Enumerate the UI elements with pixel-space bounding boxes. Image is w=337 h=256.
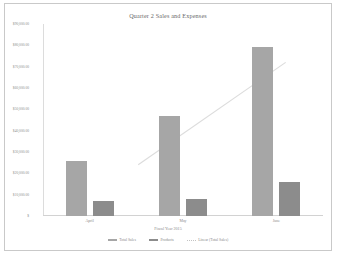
bar-april-products [93, 201, 114, 216]
legend-swatch-icon [108, 239, 117, 241]
legend-label: Total Sales [119, 238, 136, 242]
bar-june-products [279, 182, 300, 216]
y-axis-tick-label: $40,000.00 [0, 129, 29, 133]
y-axis-tick-label: $30,000.00 [0, 150, 29, 154]
x-axis-tick-label-june: June [273, 219, 280, 223]
legend-item-total-sales[interactable]: Total Sales [108, 238, 136, 242]
bar-may-products [186, 199, 207, 216]
x-axis-tick-label-april: April [86, 219, 94, 223]
legend-item-products[interactable]: Products [149, 238, 174, 242]
legend-label: Products [160, 238, 173, 242]
chart-container: Quarter 2 Sales and Expenses AprilMayJun… [4, 3, 332, 251]
y-axis-tick-label: $60,000.00 [0, 86, 29, 90]
y-axis-tick-label: $80,000.00 [0, 43, 29, 47]
legend-label: Linear (Total Sales) [198, 238, 228, 242]
y-axis-tick-label: $50,000.00 [0, 107, 29, 111]
x-axis-title: Fiscal Year 2015 [5, 226, 331, 231]
y-axis-tick-label: $10,000.00 [0, 193, 29, 197]
y-axis-tick-label: $90,000.00 [0, 22, 29, 26]
bar-april-total-sales [66, 161, 87, 216]
legend-swatch-icon [149, 239, 158, 241]
bar-may-total-sales [159, 116, 180, 216]
y-axis-tick-label: $ [0, 214, 29, 218]
chart-title: Quarter 2 Sales and Expenses [5, 12, 331, 19]
x-axis-tick-label-may: May [179, 219, 186, 223]
plot-area [43, 24, 323, 216]
legend-item-linear-total-sales[interactable]: Linear (Total Sales) [187, 238, 229, 242]
chart-legend: Total SalesProductsLinear (Total Sales) [5, 238, 331, 242]
bar-june-total-sales [252, 47, 273, 216]
y-axis-tick-label: $70,000.00 [0, 65, 29, 69]
y-axis-tick-label: $20,000.00 [0, 171, 29, 175]
legend-swatch-icon [187, 240, 196, 241]
